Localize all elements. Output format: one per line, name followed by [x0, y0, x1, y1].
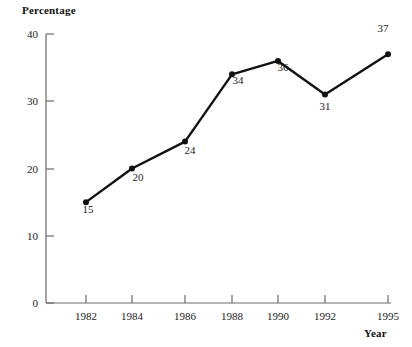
data-point-1984	[129, 166, 135, 172]
data-point-1995	[385, 51, 391, 57]
data-point-1988	[229, 71, 235, 77]
data-point-1990	[275, 58, 281, 64]
line-chart: Percentage Year 0 10 20 30 40 1982 1984 …	[0, 0, 412, 347]
data-line-percentage	[86, 54, 388, 202]
data-point-markers	[83, 51, 391, 205]
data-point-1992	[322, 92, 328, 98]
data-point-1986	[182, 139, 188, 145]
data-point-1982	[83, 199, 89, 205]
plot-area	[0, 0, 412, 347]
